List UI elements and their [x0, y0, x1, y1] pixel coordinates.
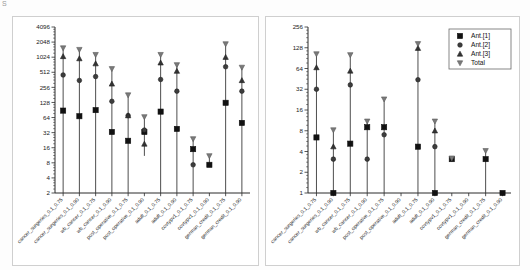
- y-tick-label: 64: [296, 65, 303, 72]
- marker-Ant1-9: [207, 162, 212, 167]
- legend-marker-circle: [458, 43, 463, 48]
- marker-Ant1-4: [126, 138, 131, 143]
- marker-Ant3-2: [348, 68, 353, 73]
- marker-Total-11: [239, 65, 244, 70]
- y-tick-label: 8: [300, 127, 304, 134]
- marker-Total-9: [207, 154, 212, 159]
- y-tick-label: 64: [43, 114, 50, 121]
- marker-Ant2-8: [191, 163, 196, 168]
- marker-Total-6: [415, 42, 420, 47]
- marker-Ant1-11: [239, 120, 244, 125]
- y-tick-label: 128: [40, 99, 51, 106]
- y-tick-label: 4096: [36, 23, 50, 30]
- legend-label: Total: [471, 59, 485, 66]
- plot-area-right: 1248163264128256cancer_surgeries_0.1_0.7…: [266, 17, 519, 265]
- marker-Ant2-4: [382, 132, 387, 137]
- legend-label: Ant.[3]: [471, 50, 490, 58]
- marker-Ant2-3: [110, 99, 115, 104]
- y-tick-label: 32: [43, 129, 50, 136]
- marker-Ant1-8: [191, 147, 196, 152]
- marker-Ant1-11: [500, 190, 505, 195]
- marker-Ant1-3: [365, 125, 370, 130]
- marker-Total-2: [93, 52, 98, 57]
- chart-svg-left: 248163264128256512102420484096cancer_sur…: [13, 17, 258, 265]
- marker-Ant1-1: [77, 114, 82, 119]
- marker-Ant1-6: [415, 144, 420, 149]
- y-tick-label: 2048: [36, 38, 50, 45]
- marker-Total-1: [77, 47, 82, 52]
- marker-Total-4: [381, 97, 386, 102]
- marker-Ant3-1: [331, 144, 336, 149]
- y-tick-label: 8: [47, 159, 51, 166]
- marker-Total-4: [125, 93, 130, 98]
- marker-Ant1-0: [314, 135, 319, 140]
- marker-Total-10: [223, 42, 228, 47]
- figure-root: S 248163264128256512102420484096cancer_s…: [0, 0, 530, 270]
- legend-label: Ant.[2]: [471, 41, 490, 49]
- marker-Total-5: [142, 115, 147, 120]
- marker-Ant2-10: [223, 64, 228, 69]
- y-tick-label: 1: [300, 189, 304, 196]
- marker-Ant1-4: [382, 125, 387, 130]
- marker-Ant3-1: [77, 56, 82, 61]
- marker-Ant3-7: [174, 68, 179, 73]
- marker-Ant2-2: [93, 74, 98, 79]
- y-tick-label: 32: [296, 85, 303, 92]
- marker-Ant2-11: [240, 89, 245, 94]
- x-axis-labels: cancer_surgeries_0.1_0.75cancer_surgerie…: [16, 196, 243, 244]
- marker-Total-6: [158, 52, 163, 57]
- marker-Ant1-2: [93, 108, 98, 113]
- marker-Ant1-7: [432, 190, 437, 195]
- marker-Ant2-0: [314, 87, 319, 92]
- marker-Total-7: [174, 63, 179, 68]
- marker-Ant2-7: [175, 89, 180, 94]
- marker-Total-0: [314, 52, 319, 57]
- marker-Ant2-6: [158, 77, 163, 82]
- marker-Ant2-1: [331, 157, 336, 162]
- marker-Ant3-11: [239, 78, 244, 83]
- marker-Ant1-10: [483, 157, 488, 162]
- chart-panel-left: 248163264128256512102420484096cancer_sur…: [12, 16, 259, 266]
- marker-Ant2-6: [416, 77, 421, 82]
- marker-Total-8: [190, 137, 195, 142]
- marker-Ant2-0: [61, 73, 66, 78]
- y-tick-label: 16: [43, 144, 50, 151]
- marker-Ant1-7: [174, 126, 179, 131]
- marker-Total-1: [331, 128, 336, 133]
- y-tick-label: 256: [40, 84, 51, 91]
- y-tick-label: 2: [47, 189, 51, 196]
- plot-area-left: 248163264128256512102420484096cancer_sur…: [13, 17, 258, 265]
- y-tick-label: 4: [47, 174, 51, 181]
- marker-Ant3-10: [223, 54, 228, 59]
- marker-Total-7: [432, 119, 437, 124]
- chart-svg-right: 1248163264128256cancer_surgeries_0.1_0.7…: [266, 17, 519, 265]
- marker-Ant1-6: [158, 109, 163, 114]
- y-tick-label: 128: [293, 44, 304, 51]
- x-axis-labels: cancer_surgeries_0.1_0.75cancer_surgerie…: [269, 196, 503, 244]
- marker-Ant1-1: [331, 190, 336, 195]
- marker-Ant3-0: [60, 54, 65, 59]
- marker-Ant2-5: [142, 128, 147, 133]
- marker-Total-2: [348, 53, 353, 58]
- marker-Total-3: [365, 119, 370, 124]
- error-bars: [63, 44, 242, 193]
- y-tick-label: 16: [296, 106, 303, 113]
- legend-marker-square: [457, 33, 462, 38]
- marker-Ant1-10: [223, 100, 228, 105]
- data-markers: [60, 42, 244, 168]
- marker-Ant1-0: [61, 108, 66, 113]
- marker-Ant3-7: [432, 128, 437, 133]
- marker-Ant3-0: [314, 65, 319, 70]
- corner-mark: S: [2, 0, 7, 7]
- marker-Total-10: [483, 149, 488, 154]
- y-tick-label: 2: [300, 168, 304, 175]
- legend: Ant.[1]Ant.[2]Ant.[3]Total: [449, 29, 511, 69]
- marker-Ant2-1: [77, 78, 82, 83]
- marker-Ant3-5: [142, 141, 147, 146]
- marker-Ant3-2: [93, 61, 98, 66]
- marker-Ant2-7: [433, 144, 438, 149]
- marker-Ant1-3: [109, 129, 114, 134]
- marker-Ant3-6: [158, 60, 163, 65]
- y-tick-label: 4: [300, 148, 304, 155]
- y-tick-label: 512: [40, 68, 51, 75]
